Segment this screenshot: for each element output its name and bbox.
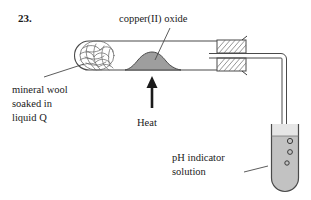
mineral-wool-leader-line xyxy=(44,64,84,77)
copper-oxide-label: copper(II) oxide xyxy=(119,13,188,25)
collection-test-tube xyxy=(272,124,299,192)
heat-arrow xyxy=(147,76,158,108)
apparatus-diagram: 23. copper(II) oxide xyxy=(0,0,311,200)
stopper-top-tick xyxy=(242,36,247,40)
heat-label: Heat xyxy=(137,117,157,128)
copper-oxide-leader-line xyxy=(155,28,170,60)
stopper-upper-block xyxy=(217,40,246,53)
mineral-wool-label-line2: soaked in xyxy=(12,98,53,109)
mineral-wool-label-line3: liquid Q xyxy=(12,112,47,123)
ph-indicator-label-line1: pH indicator xyxy=(172,152,225,163)
ph-indicator-label-line2: solution xyxy=(172,166,207,177)
question-number: 23. xyxy=(18,12,32,24)
chemistry-diagram-figure: 23. copper(II) oxide xyxy=(0,0,311,200)
stopper-lower-block xyxy=(217,58,246,71)
mineral-wool-plug xyxy=(80,41,114,70)
tube-air-space xyxy=(272,124,299,136)
mineral-wool-label-line1: mineral wool xyxy=(12,84,68,95)
ph-indicator-leader-line xyxy=(244,166,268,172)
copper-oxide-solid xyxy=(125,52,181,70)
stopper-bottom-tick xyxy=(242,71,247,75)
rubber-stopper xyxy=(214,36,252,75)
